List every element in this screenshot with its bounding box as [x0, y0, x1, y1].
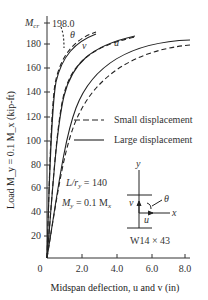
inset-v-label: v	[129, 197, 134, 208]
inset-x-label: x	[171, 207, 177, 218]
y-tick-label: 20	[31, 230, 41, 241]
curve-theta-large	[47, 34, 96, 258]
x-tick-label: 2.0	[76, 263, 89, 274]
x-tick-label: 6.0	[146, 263, 159, 274]
my-annotation: My = 0.1 Mx	[61, 197, 112, 210]
y-tick-label: 180	[26, 38, 41, 49]
x-tick-label: 0	[38, 263, 43, 274]
chart: 180 160 140 120 100 80 60 40 20 Mcr 198.…	[0, 0, 208, 300]
inset-y-label: y	[135, 158, 141, 169]
curve-u-small	[47, 45, 190, 258]
curve-u-large	[47, 40, 190, 258]
section-label: W14 × 43	[130, 235, 170, 246]
y-tick-label: 160	[26, 62, 41, 73]
mcr-leader	[61, 27, 64, 48]
curve-theta-small	[47, 32, 96, 258]
x-tick-label: 8.0	[179, 263, 192, 274]
legend: Small displacement Large displacement	[74, 114, 193, 145]
y-tick-label: 140	[26, 86, 41, 97]
y-tick-label: 120	[26, 111, 41, 122]
y-axis-title: Load M_y = 0.1 M_x (kip-ft)	[5, 91, 17, 209]
y-tick-label: 60	[31, 182, 41, 193]
x-axis-title: Midspan deflection, u and v (in)	[51, 282, 180, 294]
curve-v-small	[47, 37, 135, 258]
mcr-value: 198.0	[52, 18, 75, 29]
legend-large-label: Large displacement	[114, 134, 193, 145]
x-tick-label: 4.0	[111, 263, 124, 274]
x-ticks	[82, 254, 185, 258]
inset-theta-label: θ	[164, 193, 169, 204]
u-curve-label: u	[114, 37, 119, 48]
inset-u-label: u	[144, 214, 149, 225]
legend-small-label: Small displacement	[114, 114, 193, 125]
v-curve-label: v	[82, 40, 87, 51]
y-top-label: Mcr	[24, 17, 39, 30]
y-tick-label: 40	[31, 206, 41, 217]
y-tick-label: 80	[31, 159, 41, 170]
lr-annotation: L/ry = 140	[65, 177, 107, 190]
theta-curve-label: θ	[70, 29, 75, 40]
y-tick-label: 100	[26, 135, 41, 146]
